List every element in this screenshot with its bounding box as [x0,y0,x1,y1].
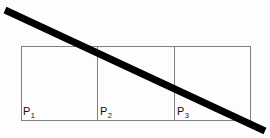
cell-label-p2-subscript: 2 [108,111,112,120]
cell-label-p1-subscript: 1 [31,111,35,120]
diagonal-line [5,10,265,131]
cell-label-p2: P2 [100,106,112,117]
cell-label-p1-base: P [23,105,30,117]
cell-label-p2-base: P [100,105,107,117]
cell-label-p1: P1 [23,106,35,117]
diagram-canvas [0,0,270,138]
cell-label-p3-subscript: 3 [185,111,189,120]
cell-label-p3: P3 [177,106,189,117]
geometry-diagram: P1 P2 P3 [0,0,270,138]
cell-label-p3-base: P [177,105,184,117]
